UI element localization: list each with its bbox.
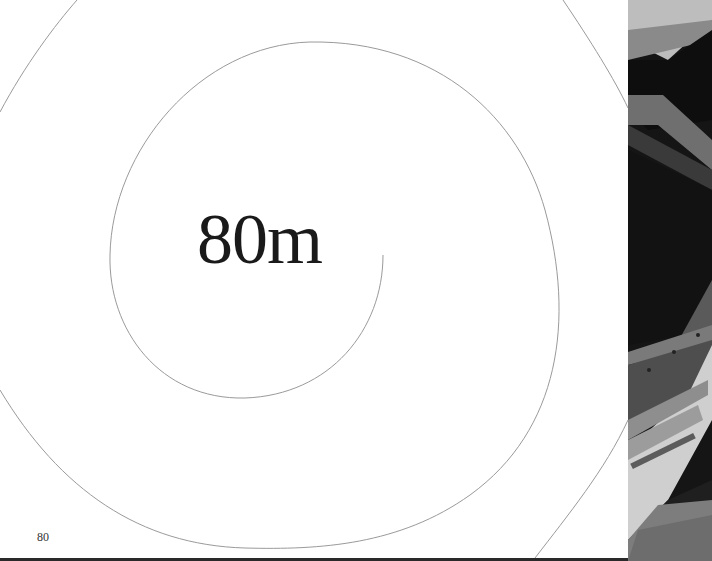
structure-photo [628, 0, 712, 561]
photo-image [628, 0, 712, 561]
page-number: 80 [37, 530, 49, 545]
headline-title: 80m [197, 203, 322, 275]
spiral-line-graphic [0, 0, 628, 558]
document-page: 80m 80 [0, 0, 628, 558]
